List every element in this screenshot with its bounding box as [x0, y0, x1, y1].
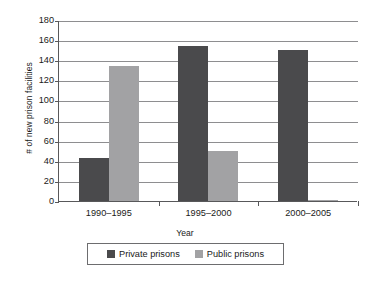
legend-swatch-private-icon: [107, 250, 115, 258]
y-tick-label: 60: [44, 137, 54, 146]
legend-item-public: Public prisons: [195, 249, 264, 259]
y-tick-mark: [55, 202, 59, 203]
legend-label-public: Public prisons: [207, 249, 264, 259]
x-tick-label: 1990–1995: [86, 208, 132, 218]
legend-swatch-public-icon: [195, 250, 203, 258]
x-axis-title: Year: [0, 228, 370, 238]
legend-item-private: Private prisons: [107, 249, 180, 259]
bar-public: [109, 66, 139, 201]
bar-private: [178, 46, 208, 201]
bar-group: [59, 20, 159, 201]
x-tick-mark: [159, 201, 160, 206]
y-tick-label: 80: [44, 117, 54, 126]
y-tick-label: 0: [49, 197, 54, 206]
x-tick-label: 2000–2005: [285, 208, 331, 218]
bar-group: [258, 20, 358, 201]
bar-group: [159, 20, 259, 201]
legend-label-private: Private prisons: [119, 249, 180, 259]
bar-chart: # of new prison facilities 0204060801001…: [0, 0, 370, 281]
y-tick-label: 100: [39, 97, 54, 106]
y-tick-label: 140: [39, 57, 54, 66]
bar-private: [79, 158, 109, 201]
x-tick-mark: [358, 201, 359, 206]
bar-series-container: [59, 20, 358, 201]
y-tick-label: 20: [44, 177, 54, 186]
y-tick-label: 160: [39, 37, 54, 46]
y-tick-label: 120: [39, 77, 54, 86]
legend: Private prisons Public prisons: [87, 243, 284, 265]
x-tick-label: 1995–2000: [186, 208, 232, 218]
y-tick-label: 180: [39, 16, 54, 25]
x-tick-mark: [258, 201, 259, 206]
y-axis-title: # of new prison facilities: [24, 33, 34, 183]
bar-public: [308, 200, 338, 201]
bar-public: [208, 151, 238, 201]
bar-private: [278, 50, 308, 201]
y-tick-label: 40: [44, 157, 54, 166]
plot-area: 020406080100120140160180 1990–19951995–2…: [58, 21, 357, 202]
